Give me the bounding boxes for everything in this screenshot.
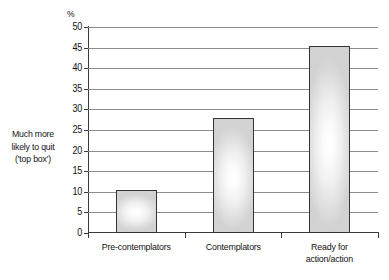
x-axis-category-label: Pre-contemplators bbox=[91, 241, 181, 253]
y-axis-tick bbox=[84, 130, 88, 131]
series-annotation-line-3: ('top box') bbox=[3, 153, 64, 166]
y-axis-tick bbox=[84, 89, 88, 90]
x-axis-tick bbox=[378, 233, 379, 238]
x-axis-category-label: Contemplators bbox=[188, 241, 278, 253]
x-axis-category-label: Ready foraction/action bbox=[285, 241, 375, 264]
bar bbox=[213, 118, 254, 233]
y-axis-tick-label: 25 bbox=[62, 125, 82, 135]
x-axis-category-label-line: Pre-contemplators bbox=[91, 241, 181, 253]
y-axis-tick-label: 0 bbox=[62, 228, 82, 238]
y-axis-tick bbox=[84, 68, 88, 69]
y-axis-tick-label: 30 bbox=[62, 104, 82, 114]
y-axis-tick bbox=[84, 48, 88, 49]
x-axis-tick bbox=[88, 233, 89, 238]
y-axis-tick-labels: 50454035302520151050 bbox=[58, 27, 82, 233]
y-axis-tick-label: 15 bbox=[62, 166, 82, 176]
y-axis-tick-label: 20 bbox=[62, 146, 82, 156]
y-axis-tick bbox=[84, 192, 88, 193]
x-axis-category-label-line: Ready for bbox=[285, 241, 375, 253]
y-axis-tick bbox=[84, 212, 88, 213]
bar bbox=[116, 190, 157, 233]
bar-chart: Much more likely to quit ('top box') % 5… bbox=[0, 0, 389, 280]
x-axis-tick bbox=[185, 233, 186, 238]
y-axis-tick-label: 45 bbox=[62, 43, 82, 53]
y-axis-tick-label: 50 bbox=[62, 22, 82, 32]
gridline bbox=[88, 27, 378, 28]
series-annotation-line-2: likely to quit bbox=[3, 141, 64, 154]
y-axis-tick bbox=[84, 109, 88, 110]
y-axis-tick-label: 40 bbox=[62, 63, 82, 73]
series-annotation-line-1: Much more bbox=[3, 128, 64, 141]
y-axis-tick bbox=[84, 171, 88, 172]
y-axis-tick-label: 10 bbox=[62, 187, 82, 197]
series-annotation-label: Much more likely to quit ('top box') bbox=[3, 128, 64, 166]
bar bbox=[309, 46, 350, 233]
y-axis-tick-label: 35 bbox=[62, 84, 82, 94]
x-axis-category-label-line: action/action bbox=[285, 253, 375, 265]
x-axis-category-label-line: Contemplators bbox=[188, 241, 278, 253]
y-axis-tick bbox=[84, 151, 88, 152]
y-axis-tick-label: 5 bbox=[62, 207, 82, 217]
x-axis-tick bbox=[281, 233, 282, 238]
plot-area bbox=[88, 27, 378, 233]
y-axis-unit-label: % bbox=[67, 9, 75, 19]
y-axis-tick bbox=[84, 27, 88, 28]
